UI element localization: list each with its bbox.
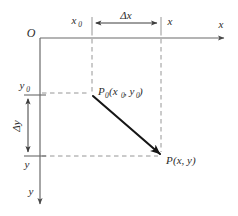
origin-label: O [27, 26, 36, 40]
displacement-vector [93, 96, 160, 154]
delta-x-label: Δx [119, 9, 131, 21]
figure-root: O x y x 0 x y 0 y Δx Δy P 0 (x 0 , y 0 )… [0, 0, 238, 216]
y0-tick-base: y [19, 79, 25, 91]
x0-tick-subscript: 0 [78, 20, 82, 29]
y-tick-label: y [24, 158, 30, 170]
point-p0-label: P 0 (x 0 , y 0 ) [97, 85, 143, 100]
axes-group [40, 38, 224, 204]
point-p0-coords-close: ) [138, 85, 143, 98]
coordinate-diagram: O x y x 0 x y 0 y Δx Δy P 0 (x 0 , y 0 )… [0, 0, 238, 216]
y0-tick-label: y 0 [19, 79, 31, 94]
point-p-base: P [165, 154, 173, 166]
x0-tick-base: x [71, 14, 77, 26]
point-p-label: P (x, y) [165, 154, 196, 167]
x-axis-label: x [218, 18, 224, 30]
point-p0-coords-mid: , y [124, 85, 135, 97]
point-p0-coords-open: (x [109, 85, 118, 98]
point-p-coords: (x, y) [173, 154, 196, 167]
y0-tick-subscript: 0 [26, 85, 30, 94]
tick-marks-group [24, 95, 46, 156]
delta-y-label: Δy [10, 120, 22, 132]
y-axis-label: y [28, 185, 34, 197]
x0-tick-label: x 0 [71, 14, 83, 29]
displacement-vector-group [93, 96, 160, 154]
point-p0-base: P [97, 85, 105, 97]
x-tick-label: x [167, 15, 173, 27]
